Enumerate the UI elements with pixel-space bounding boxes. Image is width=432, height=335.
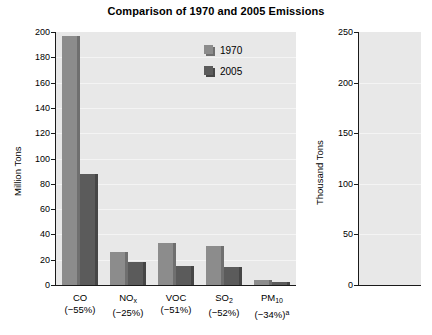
y-tick-mark <box>51 57 55 58</box>
y-tick-label: 100 <box>309 180 353 189</box>
legend-swatch-1970-icon <box>204 45 215 56</box>
y-tick-label: 100 <box>6 155 50 164</box>
emissions-comparison-figure: Comparison of 1970 and 2005 Emissions Mi… <box>0 0 432 335</box>
bar-SO2-2005 <box>224 267 242 285</box>
y-tick-label: 250 <box>309 28 353 37</box>
legend-item-1970: 1970 <box>204 45 242 56</box>
y-tick-label: 40 <box>6 230 50 239</box>
y-tick-label: 200 <box>309 79 353 88</box>
y-tick-mark <box>354 32 358 33</box>
bar-PM10-1970 <box>254 280 272 285</box>
bar-CO-1970 <box>62 36 80 285</box>
y-tick-label: 160 <box>6 79 50 88</box>
y-tick-mark <box>51 209 55 210</box>
y-tick-label: 180 <box>6 53 50 62</box>
bar-NOx-2005 <box>128 262 146 285</box>
legend-label-1970: 1970 <box>220 45 242 56</box>
legend-label-2005: 2005 <box>220 66 242 77</box>
right-plot-area <box>359 32 421 285</box>
legend-item-2005: 2005 <box>204 66 242 77</box>
left-chart-panel: Million Tons 020406080100120140160180200… <box>0 0 300 335</box>
bar-VOC-1970 <box>158 243 176 285</box>
gridline <box>359 83 421 84</box>
y-tick-label: 50 <box>309 230 353 239</box>
y-tick-mark <box>51 83 55 84</box>
right-y-axis-title: Thousand Tons <box>314 140 325 205</box>
right-chart-panel: Thousand Tons 050100150200250 Pb(−98%)b <box>300 0 432 335</box>
y-tick-label: 140 <box>6 104 50 113</box>
y-tick-mark <box>354 83 358 84</box>
y-tick-label: 80 <box>6 180 50 189</box>
y-tick-label: 60 <box>6 205 50 214</box>
bar-PM10-2005 <box>272 282 290 285</box>
y-tick-label: 120 <box>6 129 50 138</box>
gridline <box>56 108 296 109</box>
gridline <box>56 57 296 58</box>
y-tick-mark <box>51 260 55 261</box>
gridline <box>359 234 421 235</box>
bar-NOx-1970 <box>110 252 128 285</box>
y-tick-label: 200 <box>6 28 50 37</box>
y-tick-label: 0 <box>6 281 50 290</box>
y-tick-mark <box>51 234 55 235</box>
left-y-axis-line <box>55 32 56 286</box>
right-y-axis-line <box>358 32 359 286</box>
gridline <box>359 184 421 185</box>
y-tick-mark <box>354 184 358 185</box>
y-tick-mark <box>354 285 358 286</box>
y-tick-mark <box>51 285 55 286</box>
legend-swatch-2005-icon <box>204 66 215 77</box>
y-tick-mark <box>51 108 55 109</box>
y-tick-label: 20 <box>6 256 50 265</box>
gridline <box>56 159 296 160</box>
right-x-axis-line <box>358 285 421 286</box>
y-tick-mark <box>51 184 55 185</box>
gridline <box>56 83 296 84</box>
gridline <box>359 133 421 134</box>
bar-SO2-1970 <box>206 246 224 285</box>
y-tick-mark <box>354 133 358 134</box>
y-tick-mark <box>51 32 55 33</box>
y-tick-mark <box>354 234 358 235</box>
y-tick-mark <box>51 159 55 160</box>
bar-VOC-2005 <box>176 266 194 285</box>
y-tick-label: 0 <box>309 281 353 290</box>
y-tick-label: 150 <box>309 129 353 138</box>
left-x-axis-line <box>55 285 296 286</box>
gridline <box>56 133 296 134</box>
bar-CO-2005 <box>80 174 98 285</box>
y-tick-mark <box>51 133 55 134</box>
